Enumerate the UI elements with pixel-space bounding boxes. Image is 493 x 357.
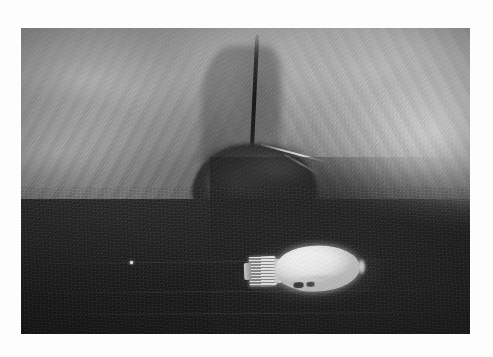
bulb-filament-stem-secondary bbox=[307, 282, 315, 287]
photograph-canvas bbox=[21, 28, 470, 334]
page-root: Black and white photograph of a rough ro… bbox=[0, 0, 493, 357]
bulb-filament-stem bbox=[293, 282, 303, 288]
bulb-tip-highlight bbox=[357, 259, 367, 277]
photograph: Black and white photograph of a rough ro… bbox=[21, 28, 470, 334]
bulb-base-contact-tip bbox=[243, 263, 251, 280]
light-bulb bbox=[247, 243, 361, 296]
